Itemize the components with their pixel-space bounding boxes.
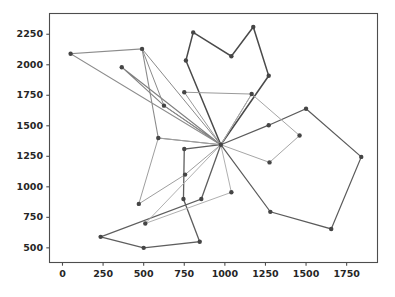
data-point-marker	[141, 246, 145, 250]
data-point-marker	[267, 123, 271, 127]
data-point-marker	[184, 58, 188, 62]
x-tick-label: 750	[174, 268, 194, 279]
data-point-marker	[143, 221, 147, 225]
data-point-marker	[359, 155, 363, 159]
data-point-marker	[267, 74, 271, 78]
x-tick-label: 1000	[212, 268, 239, 279]
x-tick-label: 1250	[252, 268, 279, 279]
data-point-marker	[156, 136, 160, 140]
plot-svg: 5007501000125015001750200022500250500750…	[0, 0, 395, 297]
data-point-marker	[199, 197, 203, 201]
x-tick-label: 250	[93, 268, 113, 279]
data-point-marker	[182, 147, 186, 151]
data-point-marker	[182, 90, 186, 94]
y-tick-label: 1750	[17, 89, 44, 100]
y-tick-label: 1000	[17, 181, 44, 192]
data-point-marker	[219, 143, 223, 147]
figure-canvas: 5007501000125015001750200022500250500750…	[0, 0, 395, 297]
y-tick-label: 2250	[17, 28, 44, 39]
data-point-marker	[329, 227, 333, 231]
data-point-marker	[183, 172, 187, 176]
data-point-marker	[304, 107, 308, 111]
data-point-marker	[249, 92, 253, 96]
data-point-marker	[140, 47, 144, 51]
y-tick-label: 2000	[17, 59, 44, 70]
data-point-marker	[267, 160, 271, 164]
data-point-marker	[120, 65, 124, 69]
data-point-marker	[229, 190, 233, 194]
y-tick-label: 750	[23, 211, 43, 222]
y-tick-label: 500	[23, 242, 43, 253]
figure-background	[0, 0, 395, 297]
data-point-marker	[191, 30, 195, 34]
data-point-marker	[198, 240, 202, 244]
data-point-marker	[98, 235, 102, 239]
x-tick-label: 0	[59, 268, 66, 279]
data-point-marker	[297, 133, 301, 137]
y-tick-label: 1250	[17, 150, 44, 161]
y-tick-label: 1500	[17, 120, 44, 131]
data-point-marker	[137, 202, 141, 206]
data-point-marker	[181, 197, 185, 201]
x-tick-label: 1750	[333, 268, 360, 279]
data-point-marker	[162, 103, 166, 107]
data-point-marker	[68, 52, 72, 56]
x-tick-label: 1500	[293, 268, 320, 279]
data-point-marker	[268, 210, 272, 214]
data-point-marker	[229, 54, 233, 58]
data-point-marker	[251, 25, 255, 29]
x-tick-label: 500	[134, 268, 154, 279]
